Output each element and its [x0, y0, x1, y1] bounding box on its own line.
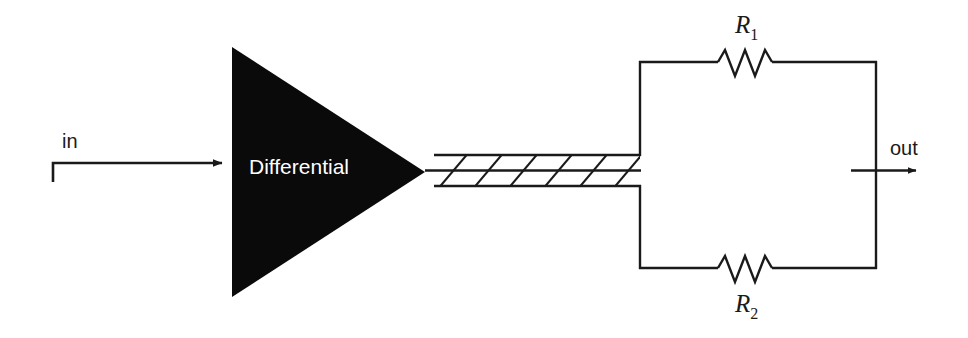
- resistor-r1-label-base: R: [734, 11, 750, 38]
- resistor-r2-label-base: R: [734, 290, 750, 317]
- output-group: out: [851, 137, 918, 171]
- circuit-diagram-figure: in Differential: [0, 0, 968, 338]
- resistor-r2-label: R2: [734, 290, 758, 322]
- left-rail-lower: [640, 185, 718, 268]
- differential-amplifier-block: Differential: [232, 47, 425, 297]
- resistor-network: R1 R2: [640, 11, 877, 322]
- diagram-canvas: in Differential: [0, 0, 968, 338]
- resistor-r1-zigzag: [718, 50, 772, 76]
- output-label: out: [890, 137, 918, 159]
- resistor-r2-zigzag: [718, 256, 772, 282]
- resistor-r2-label-sub: 2: [750, 305, 758, 322]
- input-group: in: [53, 130, 222, 182]
- resistor-r1-label-sub: 1: [750, 26, 758, 43]
- input-label: in: [62, 130, 78, 152]
- amplifier-label: Differential: [249, 155, 349, 178]
- resistor-r2: R2: [718, 256, 877, 322]
- left-rail-upper: [640, 62, 718, 156]
- resistor-r1-label: R1: [734, 11, 758, 43]
- hatched-signal-bus: [402, 151, 645, 190]
- input-signal-arrow: [53, 163, 222, 182]
- resistor-r1: R1: [718, 11, 877, 76]
